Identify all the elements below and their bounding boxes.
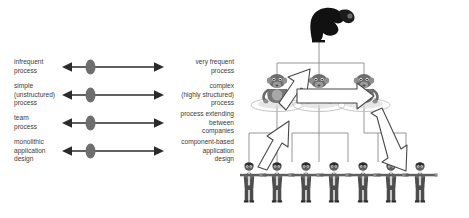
spectrum-track[interactable]	[62, 60, 164, 74]
top-down-arrow	[371, 108, 407, 171]
arrowhead-right-icon	[154, 146, 164, 156]
spectrum-right-label: complex (highly structured) process	[168, 82, 234, 108]
spectrum-right-label: component-based application design	[168, 138, 234, 164]
arrowhead-right-icon	[154, 62, 164, 72]
spectrum-marker[interactable]	[86, 143, 96, 158]
arrowhead-left-icon	[62, 118, 72, 128]
spectrum-row: monolithic application design component-…	[0, 134, 240, 168]
spectrum-marker[interactable]	[86, 115, 96, 130]
arrowhead-right-icon	[154, 90, 164, 100]
arrowhead-left-icon	[62, 62, 72, 72]
spectrum-track[interactable]	[62, 116, 164, 130]
connector-lines-upper	[277, 42, 364, 78]
spectrum-right-label: process extending between companies	[168, 110, 234, 136]
spectrum-right-label: very frequent process	[168, 58, 234, 75]
spectrum-left-label: infrequent process	[14, 58, 64, 75]
arrowhead-left-icon	[62, 146, 72, 156]
spectrum-track[interactable]	[62, 144, 164, 158]
bottom-up-arrow	[258, 121, 289, 170]
spectrum-marker[interactable]	[86, 87, 96, 102]
spectrum-track[interactable]	[62, 88, 164, 102]
arrowhead-left-icon	[62, 90, 72, 100]
worker-figure	[288, 162, 323, 202]
spectrum-left-label: team process	[14, 114, 64, 131]
spectrum-left-label: monolithic application design	[14, 138, 64, 164]
spectrum-marker[interactable]	[86, 59, 96, 74]
executive-figure	[310, 8, 354, 43]
worker-figure	[402, 162, 437, 202]
worker-figure	[316, 162, 351, 202]
arrowhead-right-icon	[154, 118, 164, 128]
spectrum-left-label: simple (unstructured) process	[14, 82, 64, 108]
hierarchy-panel	[240, 0, 469, 218]
worker-figure	[345, 162, 380, 202]
spectrum-panel: infrequent process very frequent process…	[0, 0, 240, 218]
